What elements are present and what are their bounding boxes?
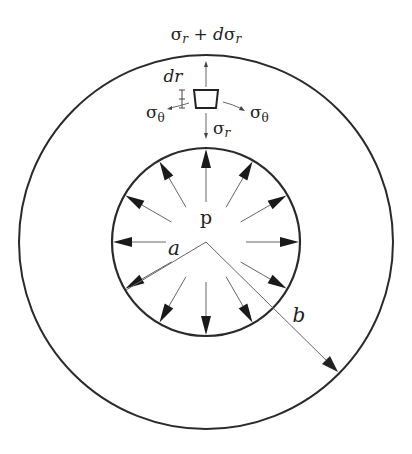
- differential-element: [194, 90, 218, 108]
- pressure-label: p: [200, 206, 212, 228]
- pressure-arrowhead: [239, 161, 253, 180]
- pressure-arrow-shaft: [226, 277, 243, 306]
- hoop-left-arrow: [170, 103, 189, 108]
- pressure-arrowhead: [160, 304, 174, 323]
- pressure-arrow-shaft: [241, 205, 270, 222]
- hoop-right-arrow: [223, 102, 242, 109]
- pressure-arrowhead: [160, 161, 174, 180]
- outer-stress-label: σr + dσr: [171, 24, 243, 46]
- radius-b-line: [206, 242, 328, 362]
- pressure-arrowhead: [280, 237, 299, 247]
- inner-stress-arrowhead: [204, 133, 208, 139]
- outer-stress-arrowhead: [204, 61, 208, 67]
- hoop-right-arrowhead: [239, 106, 245, 111]
- pressure-arrowhead: [201, 316, 211, 335]
- inner-radius-label: a: [168, 236, 180, 260]
- cylinder-stress-diagram: σr + dσr dr σθ σθ σr p a b: [0, 0, 412, 454]
- pressure-arrowhead: [113, 237, 132, 247]
- pressure-arrowhead: [239, 304, 253, 323]
- pressure-arrowhead: [268, 196, 287, 210]
- pressure-arrowhead: [125, 275, 144, 289]
- pressure-arrow-shaft: [169, 277, 186, 306]
- pressure-arrowhead: [268, 275, 287, 289]
- radius-a-line: [126, 242, 206, 290]
- hoop-stress-right-label: σθ: [250, 102, 269, 125]
- hoop-left-arrowhead: [167, 106, 172, 110]
- pressure-arrow-shaft: [142, 205, 171, 222]
- dr-label: dr: [163, 66, 183, 86]
- outer-radius-label: b: [293, 303, 306, 327]
- hoop-stress-left-label: σθ: [146, 102, 165, 125]
- pressure-arrowhead: [125, 196, 144, 210]
- pressure-arrow-shaft: [142, 262, 171, 279]
- pressure-arrowhead: [201, 149, 211, 168]
- pressure-arrow-shaft: [226, 178, 243, 207]
- pressure-arrow-shaft: [169, 178, 186, 207]
- inner-stress-label: σr: [213, 118, 232, 140]
- pressure-arrow-shaft: [241, 262, 270, 279]
